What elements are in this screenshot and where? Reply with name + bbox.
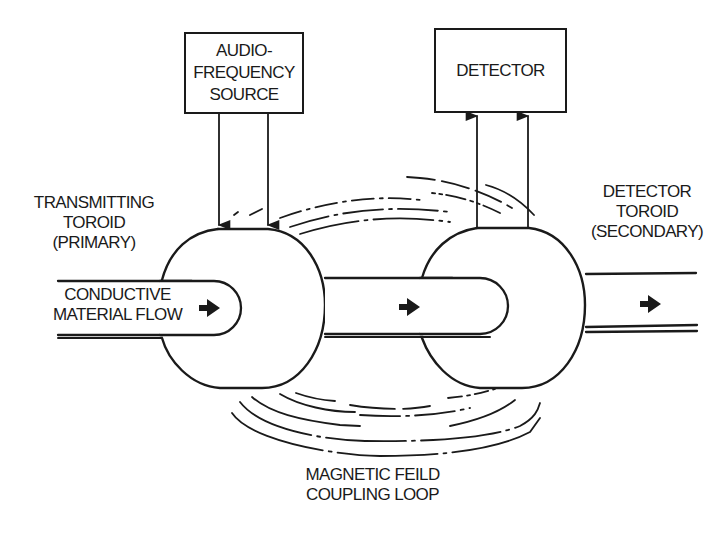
upper-field-lines: [234, 177, 534, 234]
field-label-line2: COUPLING LOOP: [290, 485, 455, 505]
detector-block: DETECTOR: [434, 28, 567, 113]
field-coupling-label: MAGNETIC FEILD COUPLING LOOP: [290, 465, 455, 505]
flow-label-line2: MATERIAL FLOW: [45, 305, 190, 325]
primary-label-line1: TRANSMITTING: [24, 193, 164, 213]
lower-field-lines: [232, 389, 540, 456]
secondary-label-line2: TOROID: [582, 202, 712, 222]
secondary-label-line1: DETECTOR: [582, 182, 712, 202]
secondary-to-detector-wires: [477, 116, 528, 228]
source-to-primary-wires: [219, 113, 268, 225]
primary-toroid-label: TRANSMITTING TOROID (PRIMARY): [24, 193, 164, 253]
source-label-line2: FREQUENCY: [193, 62, 294, 84]
field-label-line1: MAGNETIC FEILD: [290, 465, 455, 485]
audio-frequency-source-block: AUDIO- FREQUENCY SOURCE: [184, 32, 304, 114]
flow-label-line1: CONDUCTIVE: [45, 285, 190, 305]
flow-arrow-icon: [640, 295, 661, 313]
secondary-label-line3: (SECONDARY): [582, 222, 712, 242]
primary-label-line3: (PRIMARY): [24, 233, 164, 253]
source-label-line1: AUDIO-: [216, 40, 272, 62]
source-label-line3: SOURCE: [209, 84, 278, 106]
flow-label: CONDUCTIVE MATERIAL FLOW: [45, 285, 190, 325]
secondary-toroid-label: DETECTOR TOROID (SECONDARY): [582, 182, 712, 242]
diagram-canvas: [0, 0, 728, 535]
detector-toroid: [420, 228, 585, 388]
detector-label: DETECTOR: [456, 60, 544, 82]
primary-label-line2: TOROID: [24, 213, 164, 233]
